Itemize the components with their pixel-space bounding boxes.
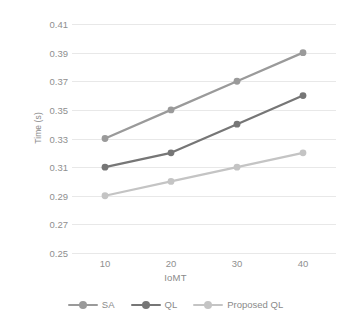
data-point-marker: [300, 149, 307, 156]
series-line: [105, 153, 303, 196]
y-axis-tick-label: 0.41: [28, 19, 68, 30]
y-axis-tick-label: 0.29: [28, 190, 68, 201]
data-point-marker: [168, 178, 175, 185]
data-point-marker: [102, 164, 109, 171]
legend-marker-icon: [68, 300, 98, 310]
legend-marker-icon: [193, 300, 223, 310]
gridline: [72, 253, 336, 254]
legend-label: QL: [165, 299, 178, 310]
data-point-marker: [168, 106, 175, 113]
y-axis-tick-label: 0.25: [28, 248, 68, 259]
data-point-marker: [234, 78, 241, 85]
y-axis-tick-label: 0.31: [28, 162, 68, 173]
x-axis-title: IoMT: [0, 272, 351, 283]
series-line: [105, 96, 303, 168]
series-line: [105, 53, 303, 139]
x-axis-tick-label: 30: [217, 258, 257, 269]
legend-label: SA: [102, 299, 115, 310]
y-axis-tick-label: 0.27: [28, 219, 68, 230]
data-point-marker: [102, 135, 109, 142]
data-point-marker: [102, 192, 109, 199]
line-chart: Time (s) 0.410.390.370.350.330.310.290.2…: [0, 0, 351, 328]
y-axis-tick-label: 0.37: [28, 76, 68, 87]
series-layer: [72, 24, 336, 253]
x-axis-tick-label: 40: [283, 258, 323, 269]
chart-legend: SAQLProposed QL: [0, 299, 351, 310]
legend-item[interactable]: Proposed QL: [193, 299, 283, 310]
data-point-marker: [234, 164, 241, 171]
data-point-marker: [234, 121, 241, 128]
y-axis-tick-label: 0.35: [28, 104, 68, 115]
y-axis-tick-label: 0.33: [28, 133, 68, 144]
legend-item[interactable]: QL: [131, 299, 178, 310]
data-point-marker: [300, 92, 307, 99]
data-point-marker: [300, 49, 307, 56]
y-axis-tick-label: 0.39: [28, 47, 68, 58]
data-point-marker: [168, 149, 175, 156]
x-axis-tick-label: 10: [85, 258, 125, 269]
legend-item[interactable]: SA: [68, 299, 115, 310]
legend-label: Proposed QL: [227, 299, 283, 310]
x-axis-tick-label: 20: [151, 258, 191, 269]
plot-area: [72, 24, 336, 253]
legend-marker-icon: [131, 300, 161, 310]
